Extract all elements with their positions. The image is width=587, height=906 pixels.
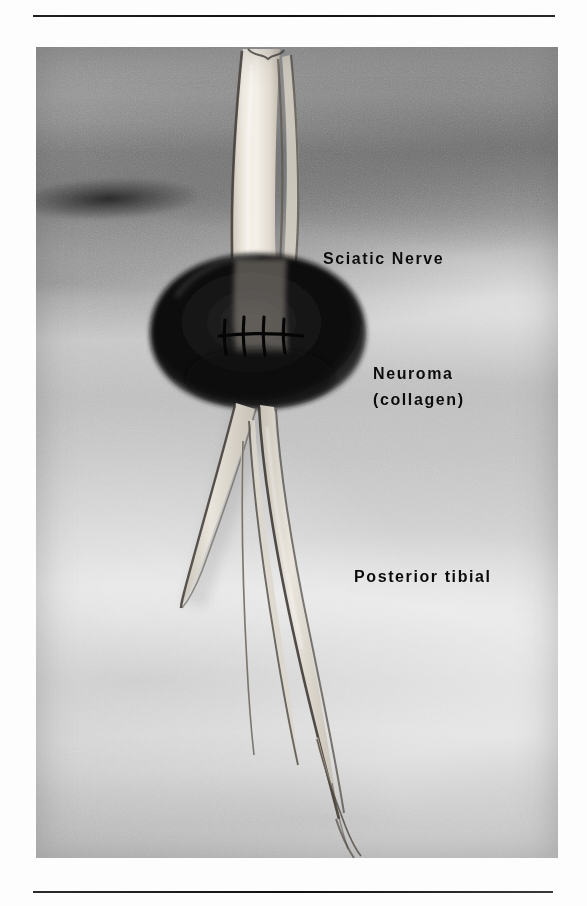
label-posterior-tibial: Posterior tibial: [354, 568, 492, 586]
label-sciatic-nerve: Sciatic Nerve: [323, 250, 444, 268]
photo-vignette: [36, 47, 558, 858]
label-collagen: (collagen): [373, 391, 465, 409]
bottom-horizontal-rule: [33, 891, 553, 893]
anatomical-photograph: Sciatic Nerve Neuroma (collagen) Posteri…: [36, 47, 558, 858]
top-horizontal-rule: [33, 15, 555, 17]
label-neuroma: Neuroma: [373, 365, 454, 383]
figure-page: Sciatic Nerve Neuroma (collagen) Posteri…: [0, 0, 587, 906]
